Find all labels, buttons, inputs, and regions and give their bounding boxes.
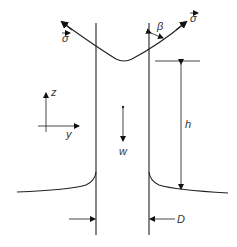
velocity-w-label: w xyxy=(119,145,128,157)
beta-label: β xyxy=(156,20,164,32)
y-axis-label: y xyxy=(65,128,73,140)
beta-angle-arc xyxy=(151,33,163,38)
sigma-left-arrow xyxy=(62,22,72,30)
height-h-label: h xyxy=(185,118,191,130)
svg-text:σ: σ xyxy=(62,32,69,44)
svg-text:σ: σ xyxy=(190,12,197,24)
z-axis-label: z xyxy=(50,86,57,98)
diagram-canvas: σ σ β z y w h D xyxy=(0,0,237,247)
bottom-meniscus-right xyxy=(149,172,228,193)
top-meniscus-curve xyxy=(63,23,185,61)
diameter-d-label: D xyxy=(177,213,185,225)
sigma-right-label: σ xyxy=(190,12,198,24)
bottom-meniscus-left xyxy=(17,172,96,192)
sigma-left-label: σ xyxy=(62,32,70,44)
sigma-right-arrow xyxy=(176,22,186,30)
